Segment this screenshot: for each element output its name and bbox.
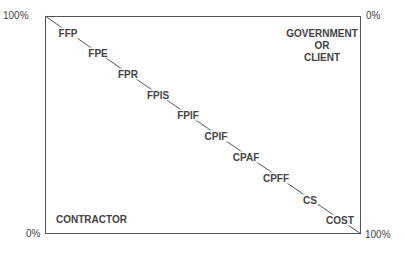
contract-type-label: CS <box>302 195 318 206</box>
government-client-label: GOVERNMENT OR CLIENT <box>272 28 372 64</box>
contract-type-label: FPR <box>117 69 139 80</box>
contract-type-label: FFP <box>58 28 79 39</box>
contract-type-label: FPIS <box>146 90 170 101</box>
corner-line-2: OR <box>272 40 372 52</box>
right-axis-top-label: 0% <box>366 10 380 21</box>
contract-type-label: COST <box>325 215 355 226</box>
left-axis-top-label: 100% <box>3 10 29 21</box>
corner-line-1: GOVERNMENT <box>272 28 372 40</box>
contractor-label: CONTRACTOR <box>56 214 127 226</box>
contract-type-label: CPAF <box>232 152 260 163</box>
contract-type-label: CPIF <box>204 131 229 142</box>
contract-type-label: FPE <box>87 48 108 59</box>
right-axis-bottom-label: 100% <box>365 229 391 240</box>
left-axis-bottom-label: 0% <box>26 228 40 239</box>
contract-type-label: CPFF <box>262 173 290 184</box>
contract-type-label: FPIF <box>176 110 200 121</box>
corner-line-3: CLIENT <box>272 52 372 64</box>
